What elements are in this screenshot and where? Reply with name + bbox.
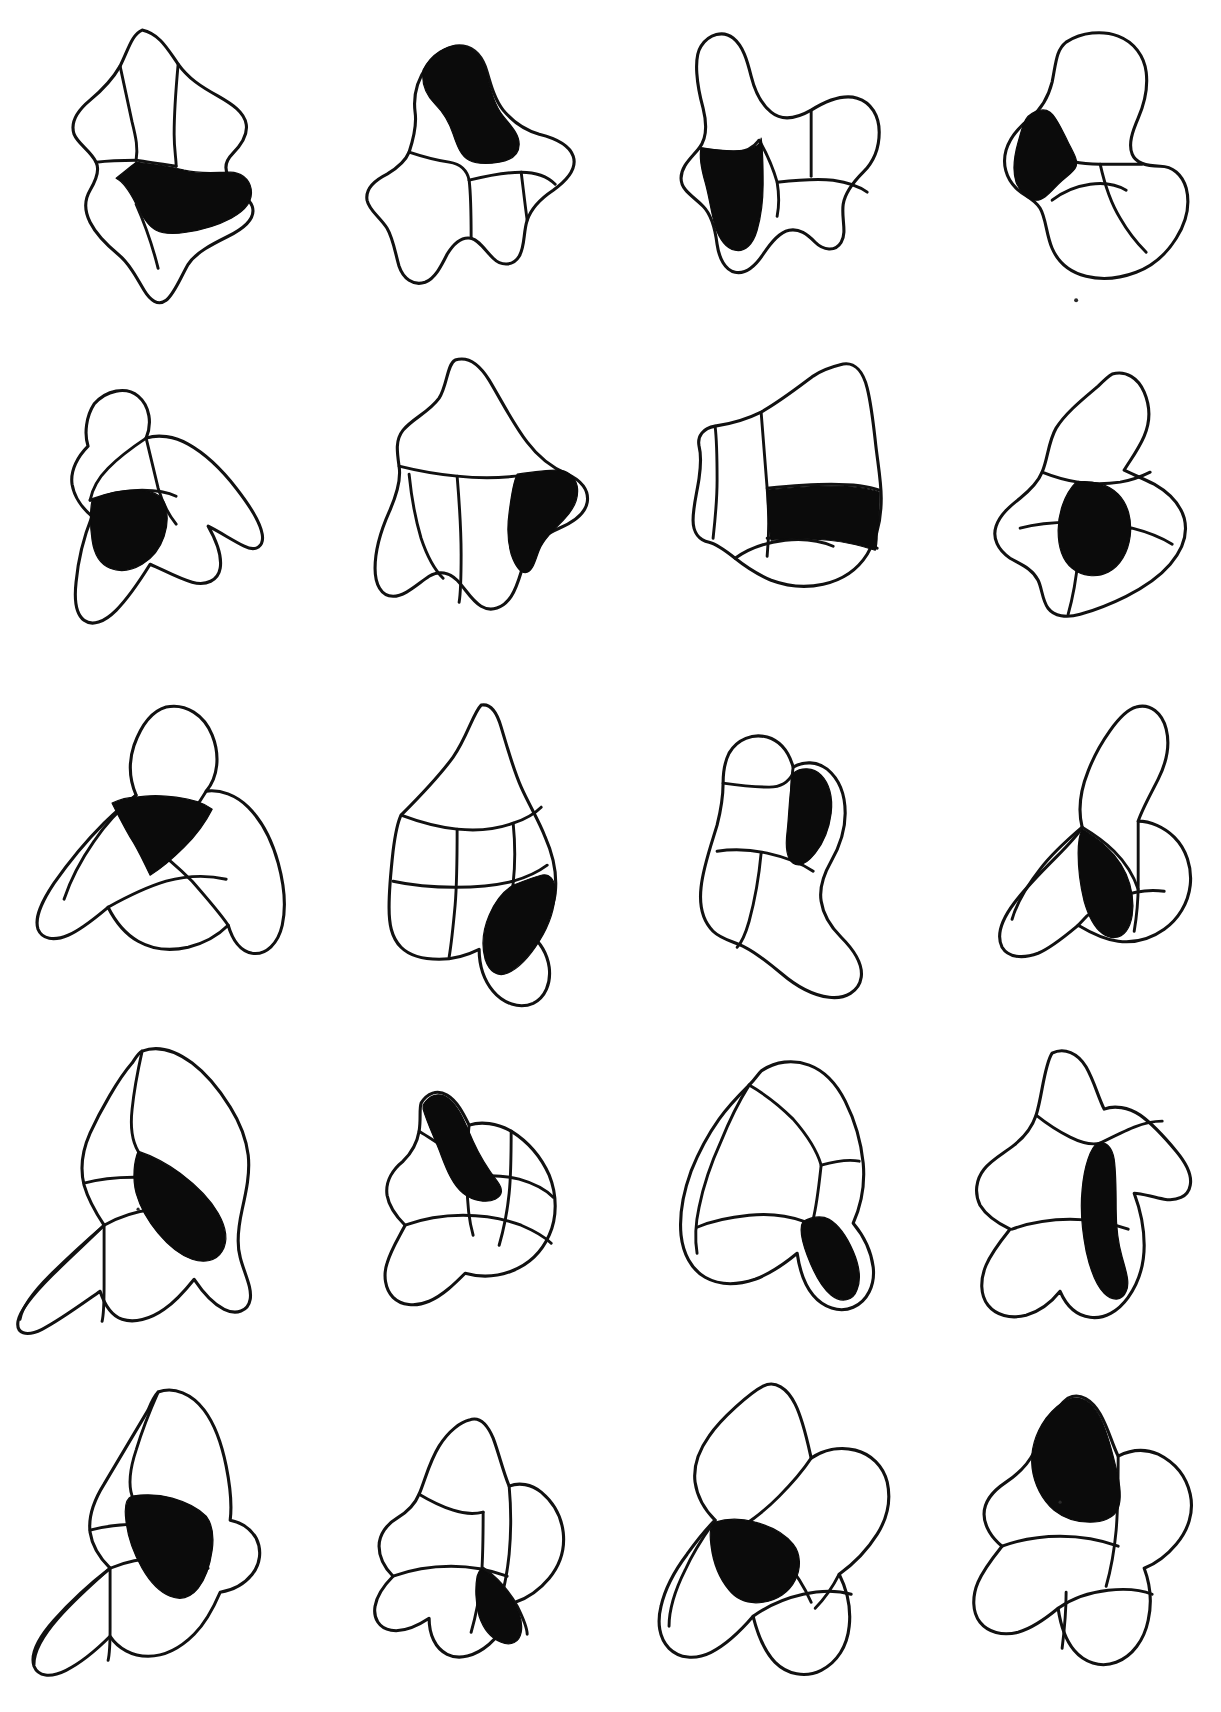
figure-r1c3 [611, 0, 916, 342]
figure-r1c2 [305, 0, 610, 342]
figure-r3c4 [916, 685, 1221, 1027]
figure-drawing [0, 0, 305, 342]
figure-drawing [305, 342, 610, 684]
figure-r1c4 [916, 0, 1221, 342]
figure-r2c4 [916, 342, 1221, 684]
figure-drawing [305, 1370, 610, 1712]
figure-drawing [0, 685, 305, 1027]
figure-drawing [0, 1027, 305, 1369]
figure-drawing [611, 685, 916, 1027]
figure-drawing [611, 1027, 916, 1369]
figure-drawing [0, 1370, 305, 1712]
figure-r5c4 [916, 1370, 1221, 1712]
figure-drawing [916, 0, 1221, 342]
figure-drawing [305, 1027, 610, 1369]
figure-r4c3 [611, 1027, 916, 1369]
figure-drawing [305, 0, 610, 342]
figure-r4c1 [0, 1027, 305, 1369]
figure-r2c2 [305, 342, 610, 684]
figure-drawing [0, 342, 305, 684]
figure-drawing [611, 342, 916, 684]
illustration-plate [0, 0, 1221, 1712]
figure-r2c3 [611, 342, 916, 684]
figure-r4c2 [305, 1027, 610, 1369]
figure-grid [0, 0, 1221, 1712]
figure-drawing [611, 0, 916, 342]
figure-drawing [916, 1370, 1221, 1712]
figure-drawing [611, 1370, 916, 1712]
figure-r5c2 [305, 1370, 610, 1712]
figure-r3c3 [611, 685, 916, 1027]
figure-r3c2 [305, 685, 610, 1027]
figure-drawing [916, 685, 1221, 1027]
figure-r2c1 [0, 342, 305, 684]
figure-r5c3 [611, 1370, 916, 1712]
figure-r5c1 [0, 1370, 305, 1712]
figure-drawing [305, 685, 610, 1027]
figure-r4c4 [916, 1027, 1221, 1369]
figure-drawing [916, 1027, 1221, 1369]
figure-r3c1 [0, 685, 305, 1027]
figure-r1c1 [0, 0, 305, 342]
figure-drawing [916, 342, 1221, 684]
